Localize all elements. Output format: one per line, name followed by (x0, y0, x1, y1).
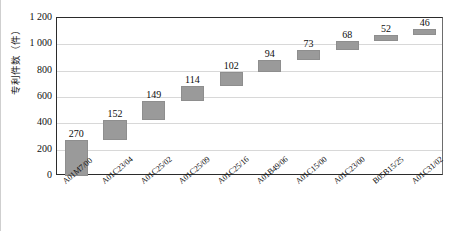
bar[interactable] (220, 72, 243, 85)
y-tick-label: 1 200 (10, 12, 52, 22)
bar-value-label: 94 (251, 48, 290, 59)
bar[interactable] (336, 41, 359, 50)
plot-area: 2701521491141029473685246 (56, 17, 443, 175)
y-tick-label: 400 (10, 117, 52, 127)
bar[interactable] (374, 35, 397, 42)
plot-inner: 2701521491141029473685246 (57, 18, 442, 174)
y-axis-tick-labels: 1 2001 0008006004002000 (8, 0, 52, 231)
bar-value-label: 114 (173, 74, 212, 85)
bar-value-label: 68 (328, 29, 367, 40)
bar[interactable] (142, 101, 165, 121)
bar[interactable] (413, 29, 436, 35)
bar-value-label: 73 (289, 38, 328, 49)
bar-value-label: 102 (212, 60, 251, 71)
bar-value-label: 149 (134, 89, 173, 100)
bar[interactable] (103, 120, 126, 140)
y-tick-label: 600 (10, 91, 52, 101)
waterfall-chart: 专利件数（件） 1 2001 0008006004002000 27015214… (0, 0, 458, 231)
gridline (57, 44, 442, 45)
bar[interactable] (297, 50, 320, 60)
y-tick-label: 800 (10, 65, 52, 75)
gridline (57, 150, 442, 151)
bar-value-label: 152 (96, 108, 135, 119)
x-axis-tick-labels: A01M7/00A01C23/04A01C25/02A01C25/09A01C2… (56, 175, 443, 231)
y-tick-label: 0 (10, 170, 52, 180)
page-edge (0, 0, 1, 231)
bar-value-label: 46 (405, 17, 444, 28)
bar[interactable] (181, 86, 204, 101)
bar-value-label: 52 (367, 23, 406, 34)
gridline (57, 97, 442, 98)
bar[interactable] (258, 60, 281, 72)
y-tick-label: 200 (10, 144, 52, 154)
y-tick-label: 1 000 (10, 38, 52, 48)
bar-value-label: 270 (57, 128, 96, 139)
